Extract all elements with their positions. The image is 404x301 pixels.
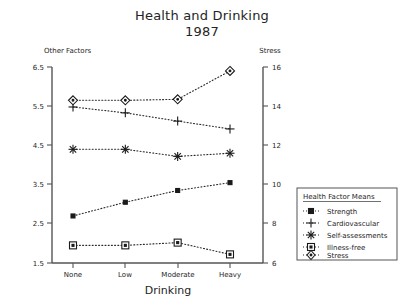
left-tick-label: 5.5 bbox=[33, 103, 44, 111]
right-axis: 16 14 12 10 8 6 bbox=[263, 64, 281, 268]
series-cardiovascular bbox=[69, 102, 235, 133]
small-solid-square-marker bbox=[176, 188, 180, 192]
plus-marker bbox=[173, 117, 182, 126]
left-axis-title: Other Factors bbox=[44, 47, 92, 55]
left-tick-label: 2.5 bbox=[33, 220, 44, 228]
series-stress bbox=[69, 66, 235, 104]
x-tick-label-heavy: Heavy bbox=[219, 271, 241, 279]
right-tick-label: 8 bbox=[272, 220, 276, 228]
legend-item-illness-free[interactable]: Illness-free bbox=[303, 244, 365, 252]
legend-label-stress: Stress bbox=[327, 252, 349, 260]
open-square-marker bbox=[227, 251, 234, 258]
right-tick-label: 10 bbox=[272, 181, 281, 189]
legend-label-self-assessments: Self-assessments bbox=[327, 232, 388, 240]
left-tick-label: 4.5 bbox=[33, 142, 44, 150]
open-square-marker bbox=[174, 239, 181, 246]
small-solid-square-marker bbox=[228, 181, 232, 185]
legend-label-cardiovascular: Cardiovascular bbox=[327, 220, 379, 228]
series-self-assessments bbox=[69, 145, 235, 161]
small-solid-square-marker bbox=[71, 214, 75, 218]
left-tick-label: 1.5 bbox=[33, 260, 44, 268]
left-tick-label: 6.5 bbox=[33, 64, 44, 72]
legend: Health Factor Means Strength Cardiovascu… bbox=[297, 188, 397, 260]
chart-title-block: Health and Drinking 1987 bbox=[0, 8, 404, 41]
asterisk-marker bbox=[226, 149, 235, 158]
small-solid-square-icon bbox=[309, 209, 314, 214]
right-tick-label: 6 bbox=[272, 260, 277, 268]
x-tick-label-moderate: Moderate bbox=[161, 271, 194, 279]
open-square-marker bbox=[70, 242, 77, 249]
asterisk-marker bbox=[121, 145, 130, 154]
legend-title: Health Factor Means bbox=[303, 193, 375, 201]
asterisk-icon bbox=[307, 231, 316, 240]
diamond-marker bbox=[173, 95, 182, 104]
right-tick-label: 14 bbox=[272, 103, 281, 111]
plus-marker bbox=[121, 108, 130, 117]
diamond-marker bbox=[226, 66, 235, 75]
series-strength bbox=[71, 181, 232, 218]
right-axis-title: Stress bbox=[259, 47, 281, 55]
x-tick-label-none: None bbox=[64, 271, 82, 279]
left-tick-label: 3.5 bbox=[33, 181, 44, 189]
legend-label-strength: Strength bbox=[327, 208, 357, 216]
plus-marker bbox=[226, 124, 235, 133]
series-layer bbox=[69, 66, 235, 257]
series-illness-free bbox=[70, 239, 234, 258]
chart-container: Health and Drinking 1987 Other Factors S… bbox=[0, 0, 404, 301]
chart-svg: Other Factors Stress Drinking 6.5 5.5 4.… bbox=[0, 0, 404, 301]
x-axis-title: Drinking bbox=[145, 284, 191, 297]
diamond-center-icon bbox=[310, 254, 312, 256]
left-axis: 6.5 5.5 4.5 3.5 2.5 1.5 bbox=[33, 64, 52, 268]
chart-subtitle: 1987 bbox=[0, 24, 404, 40]
open-square-marker bbox=[122, 242, 129, 249]
diamond-marker bbox=[69, 96, 78, 105]
x-axis: None Low Moderate Heavy bbox=[52, 263, 263, 279]
x-tick-label-low: Low bbox=[118, 271, 132, 279]
chart-title: Health and Drinking bbox=[0, 8, 404, 24]
right-tick-label: 12 bbox=[272, 142, 281, 150]
small-solid-square-marker bbox=[123, 200, 127, 204]
asterisk-marker bbox=[173, 152, 182, 161]
open-square-center-icon bbox=[310, 246, 312, 248]
right-tick-label: 16 bbox=[272, 64, 281, 72]
diamond-marker bbox=[121, 96, 130, 105]
asterisk-marker bbox=[69, 145, 78, 154]
legend-label-illness-free: Illness-free bbox=[327, 244, 365, 252]
